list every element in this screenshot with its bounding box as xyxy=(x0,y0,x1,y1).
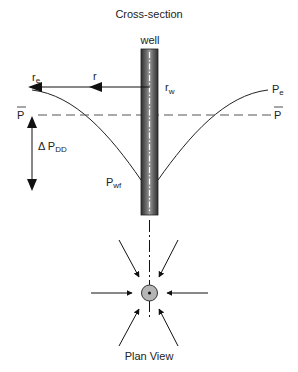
well-label: well xyxy=(140,34,160,46)
cross-section-title: Cross-section xyxy=(115,8,182,20)
pwf-label: Pwf xyxy=(106,176,122,190)
pbar-left-label: P xyxy=(17,107,26,121)
r-arrowhead-icon xyxy=(89,82,102,92)
r-label: r xyxy=(93,70,97,82)
well-pipe xyxy=(141,49,158,215)
down-arrowhead-icon xyxy=(27,179,37,191)
drawdown-double-arrow xyxy=(27,116,37,191)
right-pressure-curve xyxy=(158,90,268,180)
re-label: re xyxy=(32,71,41,85)
diagram-canvas: Cross-section well re r rw Pe P P xyxy=(0,0,298,372)
delta-p-dd-label: Δ PDD xyxy=(38,140,67,154)
left-pressure-curve xyxy=(32,90,141,180)
pe-label: Pe xyxy=(272,83,284,97)
plan-view-well-center-dot xyxy=(148,291,151,294)
pbar-right-label: P xyxy=(274,107,283,121)
plan-view-label: Plan View xyxy=(125,350,174,362)
up-arrowhead-icon xyxy=(27,116,37,128)
svg-text:P: P xyxy=(17,109,24,121)
rw-label: rw xyxy=(165,81,175,96)
svg-text:P: P xyxy=(274,109,281,121)
